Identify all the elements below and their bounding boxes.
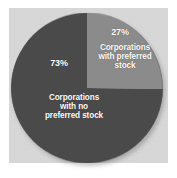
pie-slice-preferred-stock[interactable] — [87, 13, 163, 89]
pie-chart — [11, 13, 163, 163]
pie-chart-figure: 27% Corporations with preferred stock 73… — [0, 0, 177, 178]
pie-slices-svg — [11, 13, 163, 163]
